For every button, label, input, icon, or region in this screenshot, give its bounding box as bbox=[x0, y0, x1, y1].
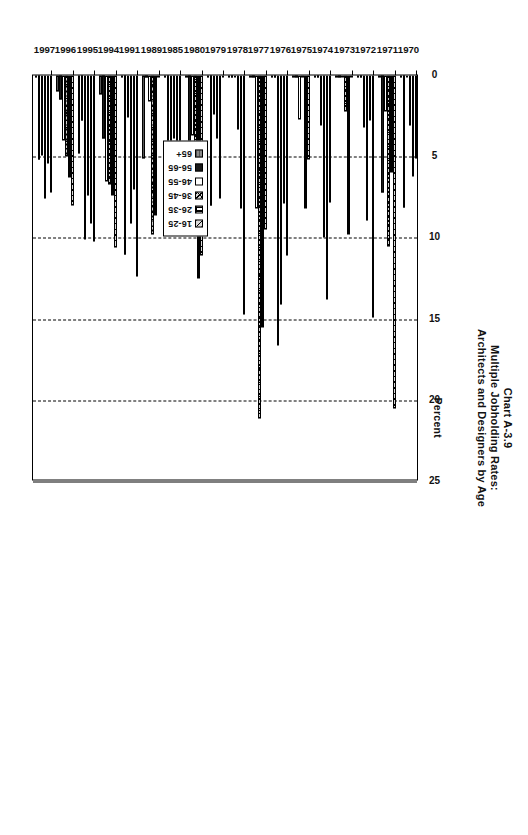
bar-1973-26-35 bbox=[347, 75, 349, 234]
bar-1974-16-25 bbox=[329, 75, 331, 202]
bar-1977-36-45 bbox=[259, 75, 261, 418]
bar-1997-56-65 bbox=[38, 75, 40, 159]
legend-item-26-35[interactable]: 26-35 bbox=[168, 202, 203, 216]
category-tick bbox=[51, 70, 52, 75]
bar-1980-46-55 bbox=[191, 75, 193, 135]
category-tick bbox=[309, 70, 310, 75]
bar-1994-46-55 bbox=[105, 75, 107, 181]
chart-subtitle-2: Architects and Designers by Age bbox=[475, 0, 488, 835]
chart-legend[interactable]: 16-2526-3536-4546-5556-6565+ bbox=[163, 140, 208, 236]
bar-1997-26-35 bbox=[47, 75, 49, 163]
bar-1979-46-55 bbox=[213, 75, 215, 114]
chart-title: Chart A-3.9 bbox=[501, 0, 514, 835]
plot-area bbox=[32, 74, 418, 480]
bar-1996-36-45 bbox=[66, 75, 68, 156]
gridline bbox=[33, 481, 417, 482]
legend-swatch-16-25 bbox=[195, 219, 203, 227]
legend-label: 46-55 bbox=[168, 176, 192, 186]
x-tick-label: 0 bbox=[421, 69, 449, 80]
legend-item-16-25[interactable]: 16-25 bbox=[168, 216, 203, 230]
bar-1970-65+ bbox=[400, 75, 402, 77]
bar-1971-16-25 bbox=[393, 75, 395, 408]
bar-1972-46-55 bbox=[363, 75, 365, 127]
x-tick-label: 25 bbox=[421, 475, 449, 486]
bar-1974-56-65 bbox=[317, 75, 319, 77]
bar-1978-56-65 bbox=[231, 75, 233, 77]
chart-title-block: Chart A-3.9 Multiple Jobholding Rates: A… bbox=[475, 0, 514, 835]
bar-1995-16-25 bbox=[93, 75, 95, 241]
category-tick bbox=[223, 70, 224, 75]
bar-1979-16-25 bbox=[222, 75, 224, 77]
bar-1970-46-55 bbox=[406, 75, 408, 77]
bar-1995-65+ bbox=[78, 75, 80, 153]
category-tick bbox=[73, 70, 74, 75]
x-tick-label: 10 bbox=[421, 231, 449, 242]
category-tick bbox=[352, 70, 353, 75]
bar-1978-26-35 bbox=[240, 75, 242, 208]
legend-swatch-36-45 bbox=[195, 191, 203, 199]
bar-1974-36-45 bbox=[323, 75, 325, 237]
bar-1976-65+ bbox=[271, 75, 273, 77]
bar-1997-36-45 bbox=[44, 75, 46, 198]
bar-1977-26-35 bbox=[262, 75, 264, 327]
bar-1978-65+ bbox=[228, 75, 230, 77]
legend-item-46-55[interactable]: 46-55 bbox=[168, 174, 203, 188]
bar-1975-16-25 bbox=[307, 75, 309, 159]
legend-label: 36-45 bbox=[168, 190, 192, 200]
bar-1989-16-25 bbox=[157, 75, 159, 77]
bar-1977-16-25 bbox=[265, 75, 267, 229]
bar-1975-56-65 bbox=[295, 75, 297, 77]
category-tick bbox=[202, 70, 203, 75]
bar-1976-16-25 bbox=[286, 75, 288, 255]
category-tick bbox=[244, 70, 245, 75]
bar-1989-36-45 bbox=[151, 75, 153, 234]
bar-1978-36-45 bbox=[237, 75, 239, 129]
x-tick-label: 20 bbox=[421, 393, 449, 404]
x-tick-label: 15 bbox=[421, 312, 449, 323]
bar-1994-56-65 bbox=[102, 75, 104, 138]
bar-1976-46-55 bbox=[277, 75, 279, 345]
legend-item-36-45[interactable]: 36-45 bbox=[168, 188, 203, 202]
bar-1971-65+ bbox=[378, 75, 380, 77]
bar-1975-65+ bbox=[292, 75, 294, 77]
bar-1989-26-35 bbox=[154, 75, 156, 215]
bar-1995-26-35 bbox=[90, 75, 92, 223]
legend-swatch-46-55 bbox=[195, 177, 203, 185]
bar-1979-65+ bbox=[207, 75, 209, 77]
category-tick bbox=[395, 70, 396, 75]
legend-item-56-65[interactable]: 56-65 bbox=[168, 160, 203, 174]
bar-1970-36-45 bbox=[409, 75, 411, 125]
bar-1991-65+ bbox=[121, 75, 123, 77]
bar-1978-16-25 bbox=[243, 75, 245, 314]
legend-label: 16-25 bbox=[168, 218, 192, 228]
category-label: 1997 bbox=[27, 44, 61, 55]
bar-1978-46-55 bbox=[234, 75, 236, 77]
legend-item-65+[interactable]: 65+ bbox=[176, 146, 203, 160]
category-tick bbox=[373, 70, 374, 75]
legend-label: 56-65 bbox=[168, 162, 192, 172]
category-tick bbox=[416, 70, 417, 75]
bar-1976-56-65 bbox=[274, 75, 276, 77]
legend-label: 65+ bbox=[176, 148, 192, 158]
bar-1995-46-55 bbox=[84, 75, 86, 239]
category-tick bbox=[180, 70, 181, 75]
bar-1970-26-35 bbox=[412, 75, 414, 176]
bar-1973-65+ bbox=[335, 75, 337, 77]
bar-1991-46-55 bbox=[127, 75, 129, 117]
legend-swatch-65+ bbox=[195, 149, 203, 157]
bar-1976-26-35 bbox=[283, 75, 285, 203]
bar-1974-46-55 bbox=[320, 75, 322, 125]
bar-1972-36-45 bbox=[366, 75, 368, 220]
bar-1997-65+ bbox=[35, 75, 37, 77]
bar-1994-16-25 bbox=[114, 75, 116, 247]
bar-1994-36-45 bbox=[108, 75, 110, 184]
bar-1985-65+ bbox=[164, 75, 166, 77]
bar-1996-56-65 bbox=[60, 75, 62, 99]
bar-1975-46-55 bbox=[298, 75, 300, 119]
bar-1995-36-45 bbox=[87, 75, 89, 195]
bar-1997-16-25 bbox=[50, 75, 52, 192]
bar-1971-56-65 bbox=[381, 75, 383, 192]
chart-page: Chart A-3.9 Multiple Jobholding Rates: A… bbox=[0, 0, 528, 835]
bar-1973-36-45 bbox=[344, 75, 346, 111]
gridline bbox=[33, 237, 417, 238]
